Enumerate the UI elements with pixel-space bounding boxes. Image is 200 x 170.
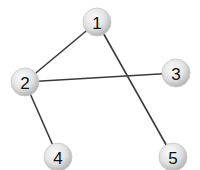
node-5: 5 <box>159 143 187 170</box>
node-label: 2 <box>20 74 29 93</box>
edge-2-3 <box>25 73 176 82</box>
node-label: 3 <box>171 65 180 84</box>
node-label: 4 <box>53 149 62 168</box>
nodes-group: 12345 <box>11 8 190 170</box>
node-2: 2 <box>11 68 39 96</box>
edges-group <box>25 22 176 157</box>
graph-diagram: 12345 <box>0 0 200 170</box>
edge-1-5 <box>97 22 173 157</box>
node-4: 4 <box>44 143 72 170</box>
node-label: 1 <box>92 14 101 33</box>
node-3: 3 <box>162 59 190 87</box>
graph-svg: 12345 <box>0 0 200 170</box>
node-label: 5 <box>168 149 177 168</box>
node-1: 1 <box>83 8 111 36</box>
